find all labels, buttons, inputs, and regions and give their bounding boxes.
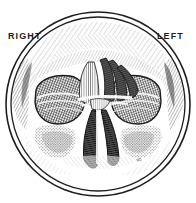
anatomical-figure: RIGHT LEFT — [0, 0, 196, 203]
orbit-right — [35, 76, 85, 124]
label-left: LEFT — [157, 32, 184, 41]
label-right: RIGHT — [8, 32, 42, 41]
